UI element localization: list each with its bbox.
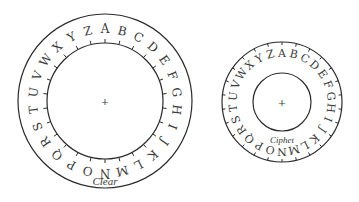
cipher-letter: J [316,124,330,136]
cipher-tick-mark [296,157,297,160]
cipher-letter: N [277,145,287,158]
cipher-tick-mark [308,152,309,155]
clear-center-mark-icon: + [101,96,109,107]
clear-tick-mark [132,46,134,50]
clear-tick-mark [76,152,78,156]
clear-tick-mark [153,66,156,68]
clear-letter: R [37,133,54,149]
cipher-tick-mark [254,152,255,155]
cipher-tick-mark [226,122,229,123]
clear-letter: U [26,86,41,98]
clear-letter: Z [82,23,93,39]
clear-letter: L [132,157,146,173]
clear-tick-mark [143,144,146,147]
clear-tick-mark [64,144,67,147]
cipher-tick-mark [335,81,338,82]
clear-tick-mark [159,79,163,80]
clear-letter: F [164,69,180,82]
clear-tick-mark [143,55,146,58]
clear-letter: I [165,122,180,132]
cipher-tick-mark [329,68,331,70]
cipher-letter: S [229,114,244,126]
clear-tick-mark [132,152,134,156]
cipher-tick-mark [233,134,235,136]
cipher-tick-mark [320,57,322,59]
clear-letter: H [169,104,184,116]
cipher-tick-mark [254,49,255,52]
clear-letter: G [169,87,184,98]
clear-letter: V [29,69,46,83]
clear-tick-mark [47,79,51,80]
clear-wheel-label: Clear [92,175,118,187]
cipher-tick-mark [296,44,297,47]
clear-tick-mark [47,122,51,123]
clear-tick-mark [119,157,120,161]
cipher-letter: E [315,67,330,81]
clear-tick-mark [54,134,57,136]
cipher-tick-mark [242,145,244,147]
clear-tick-mark [90,157,91,161]
clear-tick-mark [76,46,78,50]
cipher-tick-mark [335,122,338,123]
cipher-wheel: ABCDEFGHIJKLMNOPQRSTUVWXYZ+Ciphet [222,42,342,162]
clear-tick-mark [90,41,91,45]
cipher-tick-mark [226,81,229,82]
clear-letter: Y [64,29,79,46]
cipher-letter: T [226,103,240,113]
cipher-tick-mark [268,44,269,47]
clear-letter: K [144,147,161,164]
cipher-letter: G [324,91,338,101]
cipher-letter: A [277,47,287,60]
cipher-letter: Y [252,51,266,67]
cipher-letter: H [324,102,338,113]
clear-letter: X [49,39,65,55]
cipher-letter: Z [265,47,276,62]
cipher-tick-mark [320,145,322,147]
cipher-tick-mark [308,49,309,52]
cipher-tick-mark [242,57,244,59]
clear-letter: A [100,22,110,36]
cipher-tick-mark [233,68,235,70]
clear-letter: J [157,134,172,148]
cipher-letter: U [226,91,240,102]
cipher-center-mark-icon: + [278,97,286,108]
clear-wheel: ABCDEFGHIJKLMNOPQRSTUVWXYZ+Clear [18,14,192,188]
clear-letter: B [116,23,128,39]
clear-tick-mark [159,122,163,123]
clear-letter: D [145,39,161,56]
clear-letter: C [131,29,146,46]
clear-letter: Q [49,146,66,163]
clear-tick-mark [119,41,120,45]
cipher-tick-mark [329,134,331,136]
cipher-wheels-diagram: ABCDEFGHIJKLMNOPQRSTUVWXYZ+Clear ABCDEFG… [0,0,359,202]
clear-letter: W [36,51,55,70]
cipher-letter: B [288,47,299,62]
cipher-tick-mark [268,157,269,160]
clear-letter: E [156,53,173,68]
clear-letter: S [30,120,46,133]
clear-tick-mark [54,66,57,68]
clear-letter: T [26,105,41,115]
cipher-letter: I [321,115,335,124]
clear-tick-mark [153,134,156,136]
clear-letter: P [65,157,79,173]
cipher-wheel-label: Ciphet [270,135,294,145]
cipher-letter: F [320,79,335,91]
clear-tick-mark [64,55,67,58]
